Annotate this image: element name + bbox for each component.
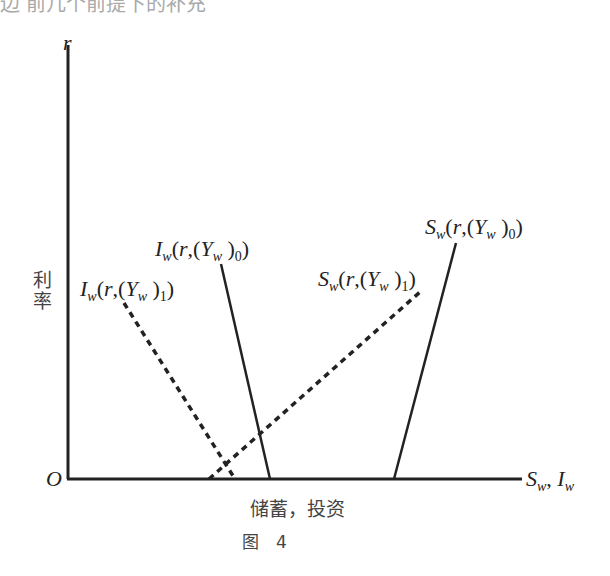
x-axis-label: Sw, Iw xyxy=(526,466,574,495)
label-investment-1: Iw(r,(Yw )1) xyxy=(80,276,174,305)
label-saving-0: Sw(r,(Yw )0) xyxy=(425,214,523,243)
label-saving-1: Sw(r,(Yw )1) xyxy=(318,266,416,295)
figure-caption: 图 4 xyxy=(242,528,287,553)
y-axis-cn-label: 利率 xyxy=(28,270,55,312)
curve-saving-1 xyxy=(209,292,420,479)
x-axis-cn-label: 储蓄，投资 xyxy=(250,494,345,521)
y-axis-label: r xyxy=(63,30,72,56)
curve-investment-1 xyxy=(124,303,235,479)
label-investment-0: Iw(r,(Yw )0) xyxy=(155,236,249,265)
origin-label: O xyxy=(46,466,62,492)
